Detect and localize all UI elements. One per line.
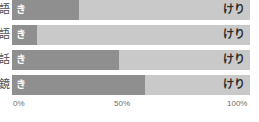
bar-segment-ki-label: き	[16, 75, 26, 95]
bar-segment-ki-label: き	[16, 50, 26, 70]
bar-track: き けり	[12, 75, 250, 95]
axis-tick-50: 50%	[114, 99, 130, 108]
axis-tick-100: 100%	[227, 99, 247, 108]
row-category-label: 話	[0, 50, 12, 70]
bar-track: き けり	[12, 50, 250, 70]
bar-segment-keri-label: けり	[223, 50, 245, 70]
bar-track: き けり	[12, 0, 250, 20]
bar-segment-ki	[12, 50, 119, 70]
axis-tick-0: 0%	[13, 99, 25, 108]
x-axis: 0% 50% 100%	[0, 99, 259, 115]
table-row: 語 き けり	[0, 25, 259, 45]
bar-segment-keri-label: けり	[223, 75, 245, 95]
chart-plot-area: 語 き けり 語 き けり 話 き けり 鏡	[0, 0, 259, 98]
stacked-bar-chart: 語 き けり 語 き けり 話 き けり 鏡	[0, 0, 259, 122]
bar-segment-ki-label: き	[16, 25, 26, 45]
row-category-label: 語	[0, 25, 12, 45]
row-category-label: 鏡	[0, 75, 12, 95]
row-category-label: 語	[0, 0, 12, 20]
table-row: 話 き けり	[0, 50, 259, 70]
bar-segment-ki-label: き	[16, 0, 26, 20]
bar-segment-keri-label: けり	[223, 0, 245, 20]
table-row: 語 き けり	[0, 0, 259, 20]
bar-track: き けり	[12, 25, 250, 45]
table-row: 鏡 き けり	[0, 75, 259, 95]
bar-segment-keri-label: けり	[223, 25, 245, 45]
bar-segment-ki	[12, 75, 145, 95]
